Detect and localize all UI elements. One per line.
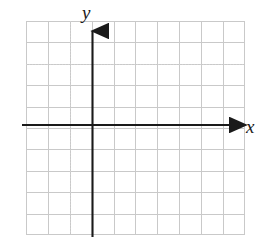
- axes-group: [0, 0, 269, 240]
- y-axis-label: y: [82, 3, 90, 22]
- coordinate-grid-figure: y x: [0, 0, 269, 240]
- x-axis-label: x: [246, 117, 254, 136]
